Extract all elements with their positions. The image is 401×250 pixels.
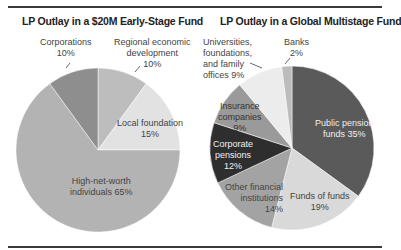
label-other-financial: Other financial institutions 14% [225, 182, 283, 215]
label-public-pension: Public pension funds 35% [315, 118, 374, 140]
left-pie [16, 68, 180, 232]
label-insurance: Insurance companies 9% [218, 101, 262, 134]
label-local-foundation: Local foundation 15% [117, 118, 183, 140]
label-banks: Banks 2% [284, 37, 309, 59]
label-corporations: Corporations 10% [40, 37, 92, 59]
label-funds-of-funds: Funds of funds 19% [290, 191, 350, 213]
label-corporate-pensions: Corporate pensions 12% [213, 139, 253, 172]
label-high-net-worth: High-net-worth individuals 65% [70, 176, 133, 198]
bottom-rule [8, 246, 382, 248]
leader-corporations [66, 63, 70, 68]
label-regional: Regional economic development 10% [114, 37, 191, 70]
label-universities: Universities, foundations, and family of… [203, 37, 252, 81]
